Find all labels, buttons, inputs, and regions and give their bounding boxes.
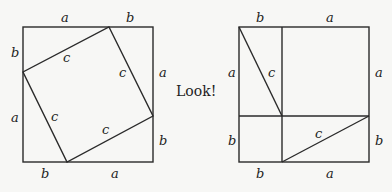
label: c [51,109,59,124]
label: a [326,10,334,25]
outer-square-left [23,27,153,162]
caption-look: Look! [176,83,216,99]
label: b [256,10,264,25]
inner-tilted-square [23,27,153,162]
diagonal-upper [239,27,282,116]
left-square: a b b a a b b a c c c c [11,10,167,181]
label: c [102,122,110,137]
label: c [315,126,323,141]
label: a [111,166,119,181]
label: b [11,45,19,60]
label: b [41,166,49,181]
label: c [119,65,127,80]
right-square: b a a b a b b a c c [228,10,383,181]
diagonal-lower [282,116,369,162]
label: c [63,50,71,65]
label: a [228,65,236,80]
outer-square-right [239,27,369,162]
label: b [126,10,134,25]
label: c [268,65,276,80]
pythagoras-diagram: a b b a a b b a c c c c Look! b a a b a … [0,0,392,192]
label: a [159,65,167,80]
label: a [61,10,69,25]
label: a [11,110,19,125]
label: a [326,166,334,181]
label: b [256,166,264,181]
label: a [375,65,383,80]
label: b [375,133,383,148]
label: b [228,133,236,148]
label: b [159,133,167,148]
